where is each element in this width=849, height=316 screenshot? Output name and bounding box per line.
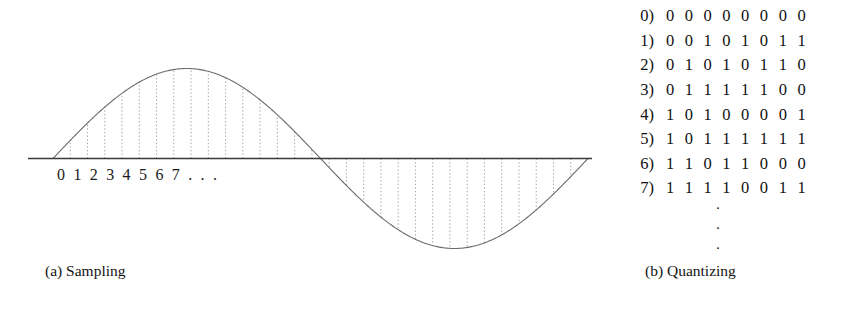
binary-row-index: 1) (600, 31, 654, 51)
ellipsis-dot: · (706, 238, 730, 258)
binary-row-bits: 0 0 1 0 1 0 1 1 (654, 31, 809, 51)
sine-wave-svg (0, 0, 600, 280)
sampling-waveform-figure (0, 0, 600, 280)
sampling-panel: 0 1 2 3 4 5 6 7 . . . (a) Sampling (0, 0, 600, 316)
binary-row: 5)1 0 1 1 1 1 1 1 (600, 127, 849, 152)
binary-row: 2)0 1 0 1 0 1 1 0 (600, 53, 849, 78)
vertical-ellipsis: ··· (706, 198, 730, 258)
quantizing-panel: 0)0 0 0 0 0 0 0 01)0 0 1 0 1 0 1 12)0 1 … (600, 0, 849, 316)
binary-row-bits: 0 1 1 1 1 1 0 0 (654, 80, 809, 100)
binary-row-bits: 0 0 0 0 0 0 0 0 (654, 6, 809, 26)
binary-row: 1)0 0 1 0 1 0 1 1 (600, 29, 849, 54)
binary-row: 6)1 1 0 1 1 0 0 0 (600, 152, 849, 177)
binary-row-index: 0) (600, 6, 654, 26)
binary-row-bits: 1 1 1 1 0 0 1 1 (654, 178, 809, 198)
binary-row-index: 4) (600, 105, 654, 125)
binary-code-list: 0)0 0 0 0 0 0 0 01)0 0 1 0 1 0 1 12)0 1 … (600, 4, 849, 201)
binary-row: 4)1 0 1 0 0 0 0 1 (600, 102, 849, 127)
binary-row-bits: 1 1 0 1 1 0 0 0 (654, 154, 809, 174)
sample-index-labels: 0 1 2 3 4 5 6 7 . . . (57, 166, 219, 184)
binary-row-index: 6) (600, 154, 654, 174)
binary-row-bits: 0 1 0 1 0 1 1 0 (654, 55, 809, 75)
binary-row: 3)0 1 1 1 1 1 0 0 (600, 78, 849, 103)
ellipsis-dot: · (706, 198, 730, 218)
binary-row-index: 2) (600, 55, 654, 75)
binary-row-bits: 1 0 1 1 1 1 1 1 (654, 129, 809, 149)
caption-quantizing: (b) Quantizing (645, 262, 736, 280)
binary-row-index: 7) (600, 178, 654, 198)
binary-row: 0)0 0 0 0 0 0 0 0 (600, 4, 849, 29)
binary-row-index: 5) (600, 129, 654, 149)
binary-row-bits: 1 0 1 0 0 0 0 1 (654, 105, 809, 125)
binary-row-index: 3) (600, 80, 654, 100)
caption-sampling: (a) Sampling (45, 262, 126, 280)
ellipsis-dot: · (706, 218, 730, 238)
